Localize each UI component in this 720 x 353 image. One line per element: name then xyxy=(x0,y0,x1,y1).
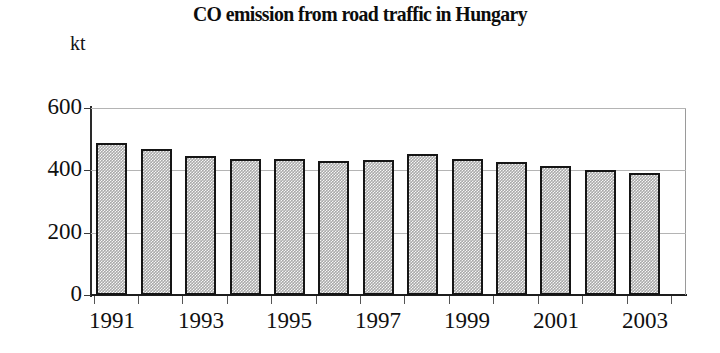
bar-1991 xyxy=(96,143,127,295)
y-axis-tick-label: 400 xyxy=(48,157,83,180)
x-axis-tick xyxy=(538,296,539,304)
y-axis-tick-label: 0 xyxy=(71,282,83,305)
y-axis-label-slot: 600 xyxy=(0,108,82,109)
x-axis-tick xyxy=(316,296,317,304)
plot-area xyxy=(91,108,686,295)
y-axis-tick-label: 600 xyxy=(48,95,83,118)
x-axis-tick xyxy=(404,296,405,304)
x-axis-tick xyxy=(227,296,228,304)
y-axis-tick xyxy=(84,295,91,296)
x-axis-tick xyxy=(360,296,361,304)
chart-title: CO emission from road traffic in Hungary xyxy=(22,2,699,27)
y-axis-tick xyxy=(84,170,91,171)
x-axis-tick xyxy=(182,296,183,304)
bar-1999 xyxy=(452,159,483,295)
bar-2001 xyxy=(540,166,571,295)
y-axis-unit-label: kt xyxy=(70,33,86,53)
x-axis-tick xyxy=(671,296,672,304)
x-axis-tick-label-1999: 1999 xyxy=(433,308,500,332)
bar-1993 xyxy=(185,156,216,295)
bar-1997 xyxy=(363,160,394,295)
y-axis-tick xyxy=(84,108,91,109)
x-axis-tick-label-1993: 1993 xyxy=(167,308,234,332)
bar-1996 xyxy=(318,161,349,295)
x-axis-tick xyxy=(627,296,628,304)
x-axis-tick xyxy=(493,296,494,304)
x-axis-tick xyxy=(138,296,139,304)
y-axis-label-slot: 400 xyxy=(0,170,82,171)
y-axis-tick-label: 200 xyxy=(48,220,83,243)
bar-1994 xyxy=(230,159,261,296)
y-axis-label-slot: 200 xyxy=(0,233,82,234)
bar-2000 xyxy=(496,162,527,295)
y-axis-tick xyxy=(84,233,91,234)
x-axis-tick-label-2003: 2003 xyxy=(611,308,678,332)
gridline xyxy=(91,108,686,109)
x-axis-tick xyxy=(94,296,95,304)
bar-1998 xyxy=(407,154,438,295)
x-axis-tick-label-1997: 1997 xyxy=(345,308,412,332)
x-axis-tick-label-1991: 1991 xyxy=(78,308,145,332)
bar-2003 xyxy=(629,173,660,295)
bar-1995 xyxy=(274,159,305,295)
y-axis-label-slot: 0 xyxy=(0,295,82,296)
x-axis-tick xyxy=(582,296,583,304)
x-axis-tick-label-2001: 2001 xyxy=(522,308,589,332)
bar-1992 xyxy=(141,149,172,295)
x-axis-tick xyxy=(271,296,272,304)
chart-page: CO emission from road traffic in Hungary… xyxy=(0,0,720,353)
bar-2002 xyxy=(585,170,616,295)
x-axis-tick-label-1995: 1995 xyxy=(256,308,323,332)
x-axis-tick xyxy=(449,296,450,304)
